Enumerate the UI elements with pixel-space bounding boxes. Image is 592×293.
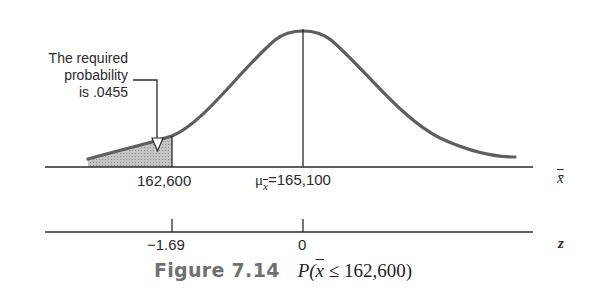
- figure-caption: Figure 7.14P(x ≤ 162,600): [154, 259, 412, 282]
- annotation-line-2: probability: [28, 67, 128, 84]
- annotation-line-1: The required: [28, 50, 128, 67]
- z-tick-label-left: −1.69: [147, 236, 185, 253]
- probability-annotation: The required probability is .0455: [28, 50, 128, 101]
- annotation-line-3: is .0455: [28, 84, 128, 101]
- z-tick-label-center: 0: [298, 236, 306, 253]
- annotation-leader-line: [133, 80, 157, 140]
- mean-subscript: x: [263, 180, 268, 192]
- distribution-plot: [0, 0, 592, 293]
- normal-curve: [88, 31, 515, 159]
- mean-label: μx=165,100: [255, 171, 331, 189]
- caption-var: x: [316, 260, 324, 281]
- z-axis-name: z: [558, 235, 564, 252]
- mu-symbol: μ: [255, 172, 263, 188]
- xbar-tick-label-162600: 162,600: [137, 172, 191, 189]
- caption-p: P(: [298, 260, 316, 281]
- caption-rest: ≤ 162,600): [324, 260, 412, 281]
- mean-value: =165,100: [268, 171, 331, 188]
- normal-distribution-figure: The required probability is .0455 162,60…: [0, 0, 592, 293]
- xbar-axis-name: x̄: [557, 170, 564, 187]
- caption-expression: P(x ≤ 162,600): [298, 260, 412, 281]
- figure-number: Figure 7.14: [154, 259, 280, 281]
